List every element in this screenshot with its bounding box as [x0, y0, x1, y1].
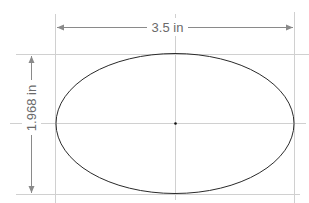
center-point	[174, 122, 177, 125]
width-label: 3.5 in	[152, 20, 184, 35]
extension-lines	[10, 12, 309, 203]
ellipse-diagram: 3.5 in 1.968 in	[0, 0, 309, 203]
height-label: 1.968 in	[24, 85, 39, 131]
